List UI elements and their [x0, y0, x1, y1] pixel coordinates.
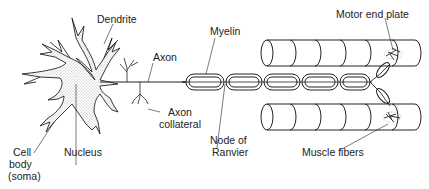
label-node-of-ranvier-line1: Node of	[210, 134, 247, 146]
cell-body-shape	[22, 18, 120, 134]
label-cell-body-line2: body	[9, 158, 32, 170]
label-motor-end-plate: Motor end plate	[336, 8, 409, 20]
label-axon-collateral-line2: collateral	[159, 118, 201, 130]
label-cell-body-line3: (soma)	[8, 170, 41, 182]
label-muscle-fibers: Muscle fibers	[302, 146, 364, 158]
label-dendrite: Dendrite	[97, 13, 137, 25]
label-cell-body-line1: Cell	[13, 146, 31, 158]
muscle-fiber-top	[261, 40, 421, 66]
label-axon-collateral-line1: Axon	[168, 106, 192, 118]
label-node-of-ranvier-line2: Ranvier	[212, 146, 248, 158]
label-nucleus: Nucleus	[64, 146, 102, 158]
muscle-fiber-bottom	[261, 104, 421, 130]
label-axon: Axon	[153, 51, 177, 63]
neuron-diagram: Dendrite Axon Myelin Motor end plate Cel…	[0, 0, 429, 189]
myelin-sheaths	[182, 61, 392, 106]
label-myelin: Myelin	[210, 25, 240, 37]
